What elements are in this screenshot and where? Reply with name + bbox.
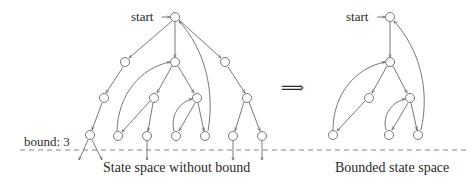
start-label-right: start xyxy=(346,9,368,25)
implies-arrow: ⟹ xyxy=(281,78,304,97)
bound-label: bound: 3 xyxy=(24,134,70,150)
left-graph-nodes xyxy=(86,13,267,141)
caption-left: State space without bound xyxy=(103,160,250,176)
caption-right: Bounded state space xyxy=(335,160,449,176)
right-graph-edges xyxy=(333,17,424,131)
start-label-left: start xyxy=(131,9,153,25)
right-graph-nodes xyxy=(329,13,423,140)
